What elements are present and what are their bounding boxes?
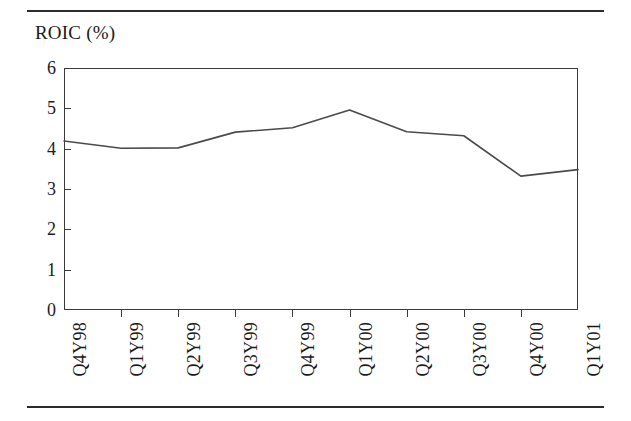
plot-area: 6543210 Q4Y98Q1Y99Q2Y99Q3Y99Q4Y99Q1Y00Q2… bbox=[0, 0, 631, 421]
data-series-layer bbox=[0, 0, 631, 421]
figure-container: ROIC (%) 6543210 Q4Y98Q1Y99Q2Y99Q3Y99Q4Y… bbox=[0, 0, 631, 421]
roic-line-series bbox=[64, 110, 578, 176]
